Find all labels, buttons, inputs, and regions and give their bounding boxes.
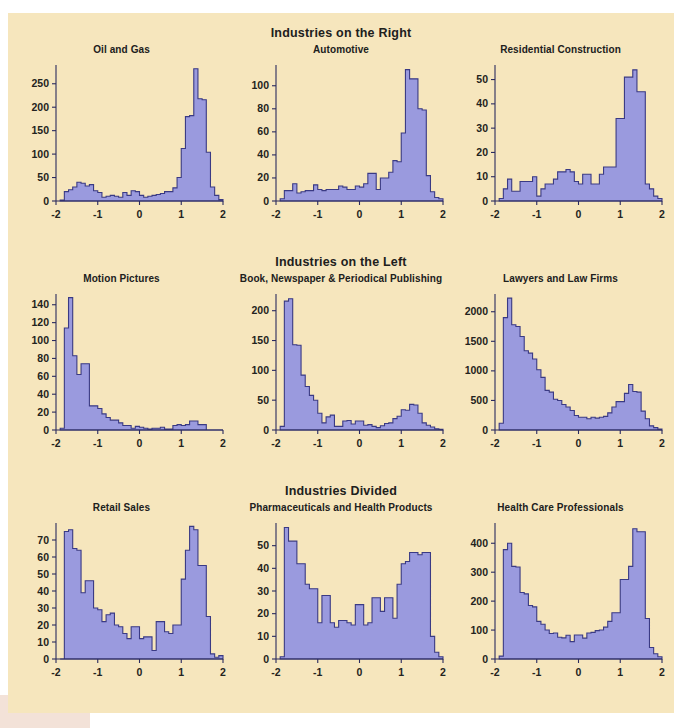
section-heading-divided: Industries Divided <box>8 483 674 500</box>
y-tick-label: 20 <box>476 146 488 158</box>
plot-pharmaceuticals-and-health-products[interactable]: 01020304050-2-1012 <box>232 515 451 685</box>
y-tick-label: 60 <box>257 125 269 137</box>
y-tick-label: 50 <box>257 539 269 551</box>
x-tick-label: -2 <box>271 208 280 220</box>
x-tick-label: 0 <box>137 437 143 449</box>
x-tick-label: -2 <box>51 666 60 678</box>
chart-panel-oil-and-gas: Oil and Gas 050100150200250-2-1012 <box>12 42 231 227</box>
x-tick-label: 1 <box>398 208 404 220</box>
histogram-bars-pharmaceuticals-and-health-products <box>280 528 443 659</box>
y-tick-label: 30 <box>257 585 269 597</box>
y-tick-label: 0 <box>43 195 49 207</box>
x-tick-label: -1 <box>93 437 102 449</box>
histogram-bars-oil-and-gas <box>60 69 223 201</box>
chart-panel-residential-construction: Residential Construction 01020304050-2-1… <box>451 42 670 227</box>
x-tick-label: 1 <box>617 666 623 678</box>
histogram-bars-health-care-professionals <box>499 529 662 659</box>
section-industries-divided: Industries Divided Retail Sales 01020304… <box>8 483 674 685</box>
histogram-bars-lawyers-and-law-firms <box>499 298 662 430</box>
chart-panel-lawyers-and-law-firms: Lawyers and Law Firms 0500100015002000-2… <box>451 271 670 456</box>
y-tick-label: 10 <box>257 630 269 642</box>
y-tick-label: 140 <box>31 298 49 310</box>
y-tick-label: 100 <box>251 364 269 376</box>
panel-row-divided: Retail Sales 010203040506070-2-1012 Phar… <box>8 500 674 685</box>
x-tick-label: -1 <box>532 666 541 678</box>
y-tick-label: 40 <box>257 148 269 160</box>
y-tick-label: 0 <box>263 195 269 207</box>
x-tick-label: 1 <box>178 208 184 220</box>
x-tick-label: 2 <box>220 208 226 220</box>
x-tick-label: 0 <box>356 666 362 678</box>
chart-svg-lawyers-and-law-firms: 0500100015002000-2-1012 <box>451 286 670 456</box>
histogram-bars-automotive <box>280 70 443 201</box>
x-tick-label: 0 <box>356 437 362 449</box>
plot-lawyers-and-law-firms[interactable]: 0500100015002000-2-1012 <box>451 286 670 456</box>
y-tick-label: 100 <box>470 624 488 636</box>
chart-panel-health-care-professionals: Health Care Professionals 0100200300400-… <box>451 500 670 685</box>
x-tick-label: -1 <box>532 208 541 220</box>
chart-panel-pharmaceuticals-and-health-products: Pharmaceuticals and Health Products 0102… <box>232 500 451 685</box>
x-tick-label: 2 <box>220 666 226 678</box>
x-tick-label: -1 <box>313 437 322 449</box>
y-tick-label: 70 <box>37 534 49 546</box>
y-tick-label: 20 <box>257 171 269 183</box>
y-tick-label: 40 <box>37 388 49 400</box>
chart-svg-automotive: 020406080100-2-1012 <box>232 57 451 227</box>
y-tick-label: 400 <box>470 537 488 549</box>
y-tick-label: 100 <box>251 79 269 91</box>
chart-panel-retail-sales: Retail Sales 010203040506070-2-1012 <box>12 500 231 685</box>
y-tick-label: 60 <box>37 370 49 382</box>
y-tick-label: 80 <box>257 102 269 114</box>
section-industries-on-the-right: Industries on the Right Oil and Gas 0501… <box>8 25 674 227</box>
y-tick-label: 50 <box>476 73 488 85</box>
chart-panel-motion-pictures: Motion Pictures 020406080100120140-2-101… <box>12 271 231 456</box>
plot-book-newspaper-periodical-publishing[interactable]: 050100150200-2-1012 <box>232 286 451 456</box>
x-tick-label: -2 <box>271 666 280 678</box>
plot-health-care-professionals[interactable]: 0100200300400-2-1012 <box>451 515 670 685</box>
histogram-bars-book-newspaper-periodical-publishing <box>280 299 443 430</box>
y-tick-label: 250 <box>31 77 49 89</box>
section-heading-left: Industries on the Left <box>8 254 674 271</box>
x-tick-label: -2 <box>271 437 280 449</box>
x-tick-label: -1 <box>313 208 322 220</box>
x-tick-label: 2 <box>440 666 446 678</box>
y-tick-label: 40 <box>257 562 269 574</box>
plot-retail-sales[interactable]: 010203040506070-2-1012 <box>12 515 231 685</box>
chart-title-oil-and-gas: Oil and Gas <box>12 42 231 57</box>
plot-automotive[interactable]: 020406080100-2-1012 <box>232 57 451 227</box>
chart-title-pharmaceuticals-and-health-products: Pharmaceuticals and Health Products <box>232 500 451 515</box>
histogram-bars-motion-pictures <box>60 298 223 430</box>
x-tick-label: -1 <box>313 666 322 678</box>
chart-svg-pharmaceuticals-and-health-products: 01020304050-2-1012 <box>232 515 451 685</box>
chart-svg-oil-and-gas: 050100150200250-2-1012 <box>12 57 231 227</box>
figure-panel: Industries on the Right Oil and Gas 0501… <box>8 13 674 713</box>
panel-row-left: Motion Pictures 020406080100120140-2-101… <box>8 271 674 456</box>
y-tick-label: 50 <box>37 171 49 183</box>
y-tick-label: 20 <box>257 607 269 619</box>
y-tick-label: 300 <box>470 566 488 578</box>
x-tick-label: 1 <box>617 437 623 449</box>
y-tick-label: 1000 <box>465 364 489 376</box>
y-tick-label: 200 <box>470 595 488 607</box>
x-tick-label: 2 <box>659 666 665 678</box>
y-tick-label: 80 <box>37 352 49 364</box>
chart-svg-residential-construction: 01020304050-2-1012 <box>451 57 670 227</box>
y-tick-label: 0 <box>43 424 49 436</box>
chart-title-motion-pictures: Motion Pictures <box>12 271 231 286</box>
y-tick-label: 1500 <box>465 335 489 347</box>
chart-svg-retail-sales: 010203040506070-2-1012 <box>12 515 231 685</box>
chart-svg-health-care-professionals: 0100200300400-2-1012 <box>451 515 670 685</box>
plot-motion-pictures[interactable]: 020406080100120140-2-1012 <box>12 286 231 456</box>
x-tick-label: 1 <box>398 437 404 449</box>
y-tick-label: 2000 <box>465 305 489 317</box>
plot-oil-and-gas[interactable]: 050100150200250-2-1012 <box>12 57 231 227</box>
x-tick-label: -2 <box>490 208 499 220</box>
y-tick-label: 20 <box>37 406 49 418</box>
chart-title-health-care-professionals: Health Care Professionals <box>451 500 670 515</box>
histogram-bars-retail-sales <box>60 526 223 659</box>
x-tick-label: -1 <box>93 208 102 220</box>
x-tick-label: 2 <box>440 437 446 449</box>
chart-title-automotive: Automotive <box>232 42 451 57</box>
y-tick-label: 200 <box>31 101 49 113</box>
plot-residential-construction[interactable]: 01020304050-2-1012 <box>451 57 670 227</box>
